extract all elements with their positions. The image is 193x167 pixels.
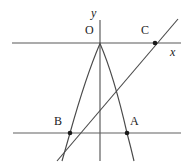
point-label-a: A — [130, 115, 139, 127]
point-dot-a — [125, 131, 130, 136]
secant-line-bc — [57, 19, 178, 161]
point-dot-b — [68, 131, 73, 136]
point-label-o: O — [85, 24, 94, 36]
geometry-figure: y x O C A B — [0, 0, 193, 167]
figure-canvas — [0, 0, 193, 167]
parabola-curve — [62, 44, 134, 162]
point-dot-c — [153, 41, 158, 46]
point-label-b: B — [54, 115, 62, 127]
point-label-c: C — [141, 24, 149, 36]
y-axis-label: y — [91, 7, 96, 19]
x-axis-label: x — [170, 46, 175, 58]
